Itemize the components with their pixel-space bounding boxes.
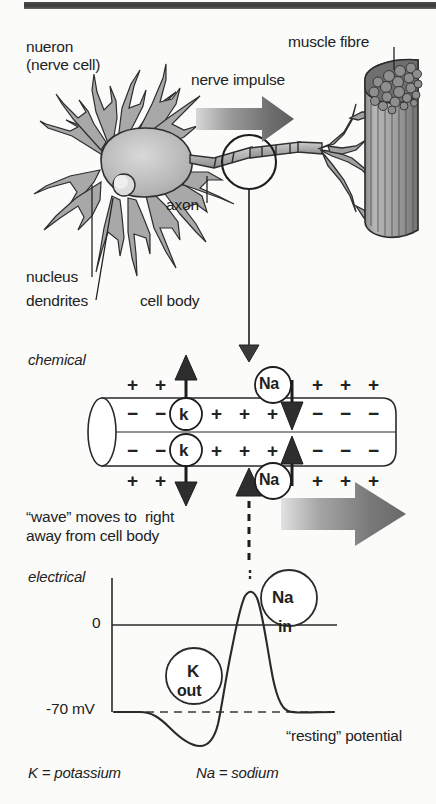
charge-plus: +	[368, 374, 379, 395]
label-axon: axon	[166, 196, 199, 213]
axis-tick-resting: -70 mV	[46, 700, 95, 717]
ion-label-na: Na	[259, 375, 279, 393]
wave-direction-arrow	[281, 482, 406, 546]
charge-minus: −	[368, 403, 379, 424]
charge-plus: +	[368, 470, 379, 491]
resting-potential-caption: “resting” potential	[286, 727, 402, 744]
charge-plus: +	[239, 440, 250, 461]
charge-plus: +	[155, 470, 166, 491]
charge-minus: −	[155, 403, 166, 424]
label-neuron-line2: (nerve cell)	[26, 56, 100, 73]
label-nerve-impulse: nerve impulse	[191, 71, 285, 88]
label-muscle-fibre: muscle fibre	[288, 33, 369, 50]
annotation-k: K	[187, 662, 199, 681]
charge-plus: +	[127, 374, 138, 395]
label-chemical-section: chemical	[28, 352, 86, 369]
diagram-artwork	[0, 0, 436, 804]
legend-sodium: Na = sodium	[196, 765, 278, 782]
label-electrical-section: electrical	[28, 569, 85, 586]
annotation-na-direction: in	[278, 618, 292, 636]
label-cell-body: cell body	[140, 292, 199, 309]
charge-minus: −	[127, 403, 138, 424]
scan-edge-band	[24, 2, 436, 9]
charge-plus: +	[340, 374, 351, 395]
label-nucleus: nucleus	[26, 268, 78, 285]
na-channel-arrows	[281, 380, 303, 486]
annotation-na: Na	[272, 588, 293, 607]
figure-canvas: nueron (nerve cell) nerve impulse muscle…	[0, 0, 436, 804]
charge-minus: −	[312, 403, 323, 424]
axis-tick-zero: 0	[92, 614, 100, 631]
muscle-fibre	[365, 60, 422, 238]
ion-label-k: k	[179, 405, 188, 424]
charge-plus: +	[127, 470, 138, 491]
charge-minus: −	[340, 440, 351, 461]
charge-plus: +	[239, 403, 250, 424]
charge-plus: +	[312, 470, 323, 491]
charge-plus: +	[312, 374, 323, 395]
charge-minus: −	[127, 440, 138, 461]
wave-caption-line1: “wave” moves to right	[26, 508, 174, 525]
label-dendrites: dendrites	[26, 292, 88, 309]
neuron-illustration	[34, 60, 422, 362]
ion-label-k: k	[179, 441, 188, 460]
charge-plus: +	[340, 470, 351, 491]
wave-caption-line2: away from cell body	[26, 527, 159, 544]
magnifier-circle	[222, 135, 276, 189]
charge-plus: +	[267, 440, 278, 461]
charge-plus: +	[211, 403, 222, 424]
ion-label-na: Na	[259, 471, 279, 489]
nerve-impulse-arrow	[196, 96, 294, 142]
charge-minus: −	[340, 403, 351, 424]
charge-plus: +	[267, 403, 278, 424]
charge-plus: +	[211, 440, 222, 461]
action-potential-graph	[112, 570, 337, 746]
annotation-k-direction: out	[177, 682, 201, 700]
charge-minus: −	[155, 440, 166, 461]
charge-minus: −	[312, 440, 323, 461]
k-channel-arrows	[175, 355, 197, 506]
legend-potassium: K = potassium	[28, 765, 121, 782]
charge-minus: −	[368, 440, 379, 461]
charge-plus: +	[155, 374, 166, 395]
label-neuron-line1: nueron	[26, 38, 73, 55]
